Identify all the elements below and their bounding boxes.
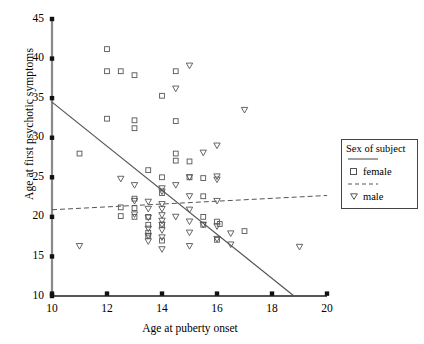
data-point-female [105, 116, 110, 121]
data-point-male [173, 86, 179, 92]
x-tick-mark [105, 291, 109, 295]
y-tick-label: 30 [18, 130, 44, 142]
y-tick-label: 25 [18, 170, 44, 182]
y-tick-mark [50, 56, 54, 60]
data-point-male [214, 143, 220, 149]
x-tick-mark [325, 291, 329, 295]
y-tick-mark [50, 294, 54, 298]
x-tick-mark [215, 291, 219, 295]
y-tick-mark [50, 175, 54, 179]
data-point-male [186, 230, 192, 236]
data-point-female [118, 214, 123, 219]
data-point-male [159, 247, 165, 253]
data-point-male [145, 199, 151, 205]
x-axis-label: Age at puberty onset [52, 322, 328, 334]
data-point-male [131, 183, 137, 189]
data-point-male [145, 206, 151, 212]
legend-label-male: male [363, 191, 383, 202]
legend-male-line [346, 180, 414, 188]
y-tick-label: 15 [18, 249, 44, 261]
data-point-female [132, 73, 137, 78]
x-tick-mark [160, 291, 164, 295]
x-tick-label: 20 [314, 302, 340, 314]
data-point-male [173, 183, 179, 189]
data-point-male [200, 150, 206, 156]
regression-line-male [52, 195, 327, 209]
data-point-female [132, 118, 137, 123]
data-point-female [201, 194, 206, 199]
data-point-female [146, 168, 151, 173]
y-tick-label: 45 [18, 12, 44, 24]
data-point-male [76, 244, 82, 250]
x-tick-label: 10 [39, 302, 65, 314]
data-point-male [118, 176, 124, 182]
data-point-male [159, 213, 165, 219]
x-tick-mark [270, 291, 274, 295]
data-point-female [105, 47, 110, 52]
y-tick-mark [50, 136, 54, 140]
legend-box: Sex of subject female male [341, 139, 418, 209]
data-point-female [105, 69, 110, 74]
y-tick-label: 10 [18, 289, 44, 301]
y-tick-label: 35 [18, 91, 44, 103]
data-point-male [241, 107, 247, 113]
data-point-female [132, 206, 137, 211]
data-point-male [186, 244, 192, 250]
data-point-female [173, 151, 178, 156]
data-point-female [201, 214, 206, 219]
regression-line-female [52, 102, 294, 296]
data-point-female [173, 69, 178, 74]
square-marker-icon [348, 168, 359, 175]
legend-title: Sex of subject [346, 142, 414, 155]
data-point-male [186, 219, 192, 225]
y-tick-mark [50, 254, 54, 258]
data-point-female [173, 119, 178, 124]
tick-marks [50, 17, 329, 298]
scatter-plot-figure: Age at first psychotic symptoms Age at p… [0, 0, 424, 344]
data-point-female [187, 159, 192, 164]
data-point-male [186, 194, 192, 200]
triangle-down-marker-icon [348, 193, 359, 200]
y-tick-mark [50, 96, 54, 100]
data-point-male [186, 63, 192, 69]
x-tick-label: 14 [149, 302, 175, 314]
axis-lines [52, 19, 327, 296]
data-point-female [118, 69, 123, 74]
data-point-female [160, 175, 165, 180]
data-point-male [296, 244, 302, 250]
data-point-female [242, 229, 247, 234]
data-point-female [132, 126, 137, 131]
data-point-male [228, 231, 234, 237]
y-tick-mark [50, 17, 54, 21]
legend-label-female: female [363, 166, 392, 177]
data-point-female [173, 158, 178, 163]
legend-item-male[interactable]: male [346, 188, 414, 205]
y-tick-label: 20 [18, 209, 44, 221]
y-tick-label: 40 [18, 51, 44, 63]
data-point-male [173, 214, 179, 220]
legend-female-line [346, 155, 414, 163]
legend-item-female[interactable]: female [346, 163, 414, 180]
x-tick-label: 12 [94, 302, 120, 314]
x-tick-label: 18 [259, 302, 285, 314]
y-tick-mark [50, 215, 54, 219]
x-tick-label: 16 [204, 302, 230, 314]
data-point-female [201, 176, 206, 181]
data-point-female [160, 93, 165, 98]
data-point-female [77, 151, 82, 156]
